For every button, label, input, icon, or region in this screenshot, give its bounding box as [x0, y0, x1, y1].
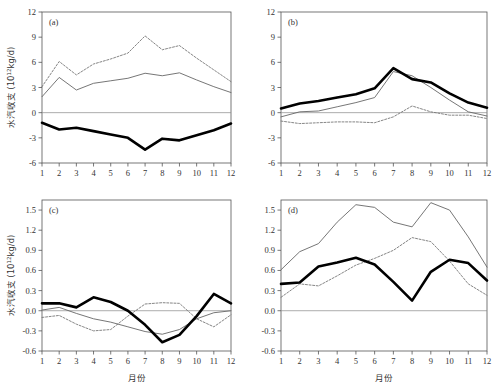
y-tick-label: -0.6 — [262, 346, 275, 356]
y-tick-label: -0.3 — [262, 326, 275, 336]
panel-a: -6-3036912123456789101112(a)水汽收支 (1012kg… — [6, 7, 235, 178]
x-tick-label: 4 — [91, 168, 96, 178]
x-tick-label: 3 — [74, 356, 78, 366]
series-line-thick-solid — [281, 68, 487, 108]
x-tick-label: 12 — [227, 168, 236, 178]
x-tick-label: 4 — [335, 356, 340, 366]
y-tick-label: 0.6 — [264, 265, 275, 275]
x-tick-label: 7 — [143, 168, 147, 178]
y-tick-label: 0.3 — [25, 286, 36, 296]
y-tick-label: 9 — [32, 32, 36, 42]
y-tick-label: 9 — [271, 32, 275, 42]
x-tick-label: 6 — [373, 168, 377, 178]
y-tick-label: -3 — [29, 133, 36, 143]
x-tick-label: 3 — [74, 168, 78, 178]
y-tick-label: 12 — [28, 7, 37, 17]
y-tick-label: 1.2 — [264, 225, 275, 235]
y-axis-title: 水汽收支 (1012kg/d) — [6, 47, 16, 129]
panel-d: -0.6-0.30.00.30.60.91.21.512345678910111… — [262, 200, 492, 383]
y-tick-label: 12 — [267, 7, 276, 17]
x-tick-label: 3 — [316, 356, 320, 366]
x-tick-label: 9 — [429, 168, 433, 178]
series-line-thick-solid — [42, 294, 231, 342]
x-axis-title: 月份 — [128, 373, 146, 383]
x-tick-label: 6 — [126, 168, 130, 178]
y-tick-label: 3 — [271, 83, 275, 93]
y-tick-label: 1.2 — [25, 225, 36, 235]
x-tick-label: 2 — [57, 356, 61, 366]
y-tick-label: -0.6 — [23, 346, 36, 356]
y-tick-label: 1.5 — [25, 205, 36, 215]
x-tick-label: 8 — [410, 168, 414, 178]
series-line-thick-solid — [281, 258, 487, 301]
x-tick-label: 10 — [192, 168, 201, 178]
y-tick-label: -6 — [29, 158, 36, 168]
plot-frame — [281, 200, 487, 351]
x-tick-label: 7 — [143, 356, 147, 366]
figure-root: -6-3036912123456789101112(a)水汽收支 (1012kg… — [0, 0, 500, 391]
x-tick-label: 6 — [373, 356, 377, 366]
plot-frame — [42, 200, 231, 351]
x-tick-label: 12 — [483, 356, 492, 366]
x-tick-label: 5 — [109, 356, 113, 366]
series-line-thin-dashed — [281, 106, 487, 124]
y-tick-label: 0.9 — [264, 245, 275, 255]
y-axis-title: 水汽收支 (1012kg/d) — [6, 235, 16, 317]
x-tick-label: 5 — [109, 168, 113, 178]
panel-label: (c) — [49, 205, 59, 215]
plot-frame — [281, 12, 487, 163]
x-tick-label: 1 — [279, 356, 283, 366]
y-tick-label: 0.6 — [25, 265, 36, 275]
y-tick-label: -3 — [268, 133, 275, 143]
x-tick-label: 8 — [160, 168, 164, 178]
series-line-thick-solid — [42, 123, 231, 150]
x-tick-label: 10 — [445, 168, 454, 178]
x-tick-label: 11 — [210, 168, 218, 178]
x-tick-label: 7 — [391, 356, 395, 366]
y-tick-label: -6 — [268, 158, 275, 168]
x-axis-title: 月份 — [375, 373, 393, 383]
y-tick-label: 6 — [271, 57, 275, 67]
x-tick-label: 12 — [227, 356, 236, 366]
x-tick-label: 1 — [40, 168, 44, 178]
x-tick-label: 10 — [192, 356, 201, 366]
x-tick-label: 5 — [354, 168, 358, 178]
x-tick-label: 8 — [160, 356, 164, 366]
x-tick-label: 5 — [354, 356, 358, 366]
y-tick-label: 6 — [32, 57, 36, 67]
x-tick-label: 7 — [391, 168, 395, 178]
x-tick-label: 11 — [464, 168, 472, 178]
panel-b: -6-3036912123456789101112(b) — [267, 7, 492, 178]
plot-frame — [42, 12, 231, 163]
x-tick-label: 9 — [429, 356, 433, 366]
x-tick-label: 12 — [483, 168, 492, 178]
x-tick-label: 2 — [298, 168, 302, 178]
panel-label: (d) — [288, 205, 298, 215]
panel-label: (b) — [288, 17, 298, 27]
series-line-thin-dashed — [42, 36, 231, 87]
x-tick-label: 10 — [445, 356, 454, 366]
y-tick-label: 0.0 — [264, 306, 275, 316]
panel-c: -0.6-0.30.00.30.60.91.21.512345678910111… — [6, 200, 235, 383]
x-tick-label: 11 — [464, 356, 472, 366]
series-line-thin-solid — [42, 73, 231, 97]
x-tick-label: 1 — [279, 168, 283, 178]
x-tick-label: 3 — [316, 168, 320, 178]
y-tick-label: 0 — [271, 108, 275, 118]
y-tick-label: -0.3 — [23, 326, 36, 336]
x-tick-label: 4 — [91, 356, 96, 366]
four-panel-line-chart: -6-3036912123456789101112(a)水汽收支 (1012kg… — [0, 0, 500, 391]
x-tick-label: 8 — [410, 356, 414, 366]
y-tick-label: 0.0 — [25, 306, 36, 316]
x-tick-label: 6 — [126, 356, 130, 366]
x-tick-label: 11 — [210, 356, 218, 366]
y-tick-label: 1.5 — [264, 205, 275, 215]
x-tick-label: 9 — [177, 356, 181, 366]
x-tick-label: 9 — [177, 168, 181, 178]
y-tick-label: 0.9 — [25, 245, 36, 255]
y-tick-label: 0 — [32, 108, 36, 118]
cropped-header-text — [0, 0, 500, 6]
panel-label: (a) — [49, 17, 59, 27]
x-tick-label: 1 — [40, 356, 44, 366]
y-tick-label: 0.3 — [264, 286, 275, 296]
